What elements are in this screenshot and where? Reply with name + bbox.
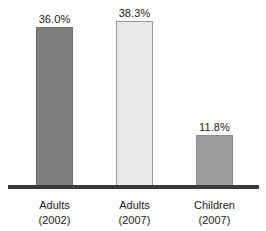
bar-group-adults-2002: 36.0% [36,0,73,188]
category-label-line-1: Children [178,198,251,213]
category-label-line-2: (2007) [98,213,171,228]
category-label-line-2: (2007) [178,213,251,228]
bar-group-children-2007: 11.8% [196,0,233,188]
category-label-line-2: (2002) [18,213,91,228]
category-label-line-1: Adults [18,198,91,213]
plot-area: 36.0% 38.3% 11.8% [0,0,266,188]
bar-value-children-2007: 11.8% [196,121,233,133]
x-axis-baseline [8,185,259,189]
bar-group-adults-2007: 38.3% [116,0,153,188]
bar-value-adults-2007: 38.3% [116,7,153,19]
category-label-children-2007: Children (2007) [178,198,251,228]
bar-adults-2002[interactable] [36,27,73,188]
bar-adults-2007[interactable] [116,21,153,188]
category-label-adults-2007: Adults (2007) [98,198,171,228]
bar-chart: 36.0% 38.3% 11.8% Adults (2002) Adults (… [0,0,266,231]
category-axis-labels: Adults (2002) Adults (2007) Children (20… [0,196,266,231]
bar-children-2007[interactable] [196,135,233,188]
bar-value-adults-2002: 36.0% [36,13,73,25]
category-label-line-1: Adults [98,198,171,213]
category-label-adults-2002: Adults (2002) [18,198,91,228]
